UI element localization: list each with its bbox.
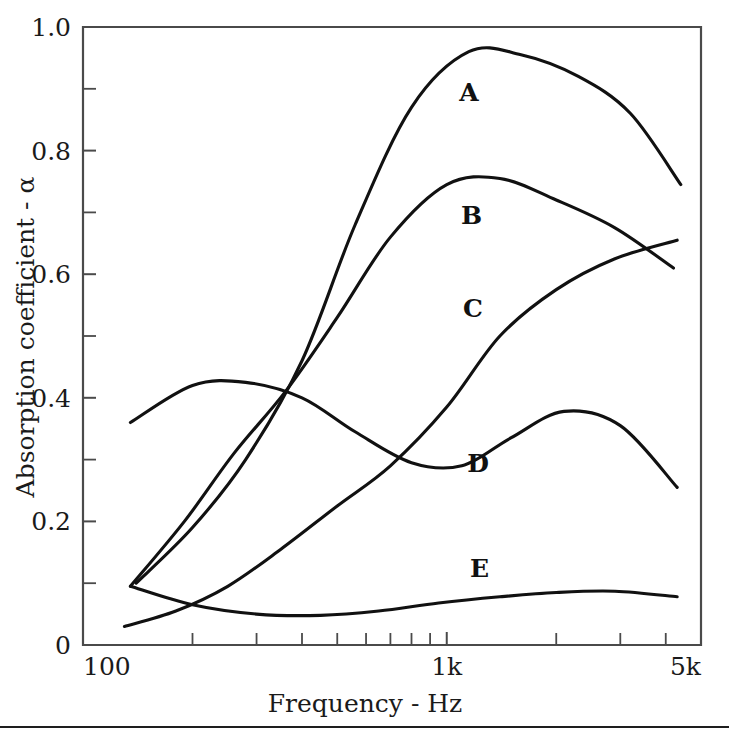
x-tick-label: 1k <box>431 652 463 681</box>
plot-frame <box>83 27 701 645</box>
footer-divider <box>0 726 729 728</box>
absorption-coefficient-chart: 00.20.40.60.81.01001k5k ABCDE Frequency … <box>0 0 729 736</box>
curve-d <box>130 381 677 488</box>
chart-figure: 00.20.40.60.81.01001k5k ABCDE Frequency … <box>0 0 729 736</box>
curve-label-d: D <box>467 449 489 478</box>
curve-label-c: C <box>463 294 483 323</box>
y-tick-label: 0.2 <box>31 507 71 536</box>
x-axis-title: Frequency - Hz <box>268 689 463 718</box>
curve-e <box>130 586 677 615</box>
x-tick-label: 5k <box>670 652 702 681</box>
curve-c <box>124 240 677 626</box>
y-axis-title: Absorption coefficient - α <box>11 176 40 498</box>
curve-a <box>136 48 681 583</box>
axis-tick-labels: 00.20.40.60.81.01001k5k <box>31 13 702 681</box>
curve-label-a: A <box>458 78 479 107</box>
curve-label-e: E <box>470 554 489 583</box>
y-tick-label: 0.8 <box>31 137 71 166</box>
curve-labels: ABCDE <box>458 78 489 583</box>
data-curves <box>124 48 680 627</box>
curve-label-b: B <box>461 201 482 230</box>
plot-border <box>83 27 701 645</box>
y-tick-label: 0 <box>55 631 71 660</box>
y-tick-label: 1.0 <box>31 13 71 42</box>
x-tick-label: 100 <box>83 652 131 681</box>
axis-ticks <box>83 27 701 645</box>
